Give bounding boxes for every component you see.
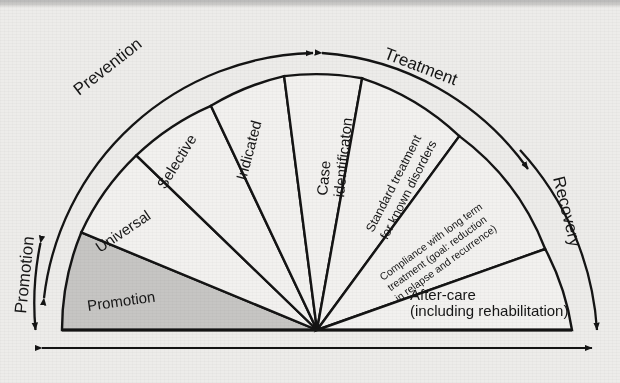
svg-text:After-care: After-care bbox=[410, 286, 476, 303]
diagram-canvas: Promotion Universal Selective Indicated … bbox=[0, 0, 620, 383]
intervention-spectrum-figure: Promotion Universal Selective Indicated … bbox=[0, 0, 620, 383]
arc-label-recovery: Recovery bbox=[549, 174, 585, 249]
svg-text:(including rehabilitation): (including rehabilitation) bbox=[410, 302, 568, 319]
arc-label-prevention: Prevention bbox=[70, 34, 146, 99]
scan-top-band bbox=[0, 0, 620, 7]
